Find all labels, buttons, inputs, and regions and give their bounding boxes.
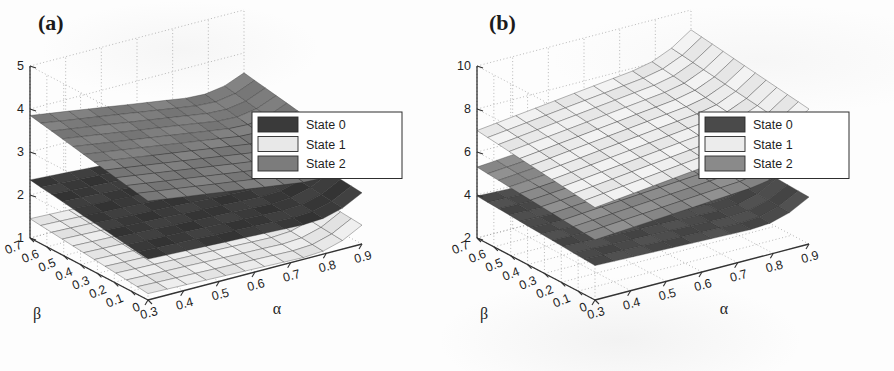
legend-swatch — [258, 156, 298, 171]
ztick-label: 2 — [17, 188, 24, 202]
panel-b-plot: 2468100.70.60.50.40.30.20.100.30.40.50.6… — [447, 0, 894, 371]
legend[interactable]: State 0State 1State 2 — [699, 112, 849, 179]
ztick-label: 4 — [17, 102, 24, 116]
legend-swatch — [258, 137, 298, 152]
legend-label: State 0 — [306, 118, 346, 132]
y-axis-title: β — [33, 305, 41, 323]
ztick-label: 4 — [464, 188, 471, 202]
legend-label: State 0 — [753, 118, 793, 132]
xtick-label: 0.4 — [621, 295, 641, 313]
ztick-label: 3 — [17, 145, 24, 159]
figure-container: (a) 123450.70.60.50.40.30.20.100.30.40.5… — [0, 0, 894, 371]
xtick-label: 0.3 — [139, 304, 159, 322]
xtick-label: 0.6 — [246, 276, 266, 294]
xtick-label: 0.8 — [317, 257, 337, 275]
x-axis-title: α — [720, 300, 729, 317]
x-axis-title: α — [273, 300, 282, 317]
ztick-label: 8 — [464, 102, 471, 116]
legend-label: State 2 — [753, 157, 793, 171]
xtick-label: 0.9 — [800, 248, 820, 266]
y-axis-title: β — [480, 305, 488, 323]
xtick-label: 0.7 — [728, 267, 748, 285]
xtick-label: 0.5 — [657, 285, 677, 303]
panel-b: (b) 2468100.70.60.50.40.30.20.100.30.40.… — [447, 0, 894, 371]
legend-swatch — [705, 117, 745, 132]
ztick-label: 10 — [457, 59, 471, 73]
legend-swatch — [258, 117, 298, 132]
xtick-label: 0.7 — [281, 267, 301, 285]
xtick-label: 0.3 — [586, 304, 606, 322]
xtick-label: 0.6 — [693, 276, 713, 294]
surfaces — [30, 73, 362, 294]
legend-swatch — [705, 137, 745, 152]
ztick-label: 5 — [17, 59, 24, 73]
xtick-label: 0.8 — [764, 257, 784, 275]
panel-a-plot: 123450.70.60.50.40.30.20.100.30.40.50.60… — [0, 0, 447, 371]
legend-label: State 1 — [306, 138, 346, 152]
panel-a: (a) 123450.70.60.50.40.30.20.100.30.40.5… — [0, 0, 447, 371]
xtick-label: 0.4 — [174, 295, 194, 313]
ztick-label: 6 — [464, 145, 471, 159]
legend-label: State 1 — [753, 138, 793, 152]
legend-swatch — [705, 156, 745, 171]
xtick-label: 0.5 — [210, 285, 230, 303]
legend-label: State 2 — [306, 157, 346, 171]
legend[interactable]: State 0State 1State 2 — [252, 112, 402, 179]
xtick-label: 0.9 — [353, 248, 373, 266]
